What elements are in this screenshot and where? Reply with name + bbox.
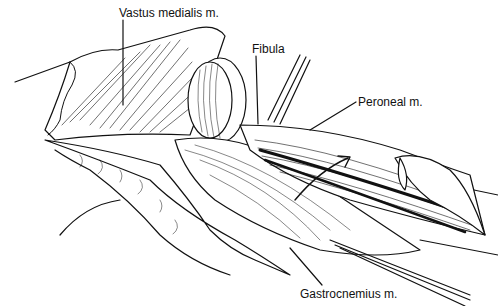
patella-disc xyxy=(188,58,246,142)
anatomy-figure: Vastus medialis m. Fibula Peroneal m. Ga… xyxy=(0,0,498,306)
forceps-instrument xyxy=(268,55,310,124)
label-fibula: Fibula xyxy=(252,42,285,56)
label-vastus-medialis: Vastus medialis m. xyxy=(119,6,219,20)
lower-outline-line xyxy=(60,200,120,235)
anatomy-drawing xyxy=(0,0,498,306)
leader-gastrocnemius xyxy=(290,248,322,285)
leader-peroneal xyxy=(310,102,356,130)
leader-fibula xyxy=(256,56,258,124)
label-gastrocnemius: Gastrocnemius m. xyxy=(300,287,397,301)
label-peroneal: Peroneal m. xyxy=(358,95,423,109)
thigh-outline-line xyxy=(15,62,70,82)
